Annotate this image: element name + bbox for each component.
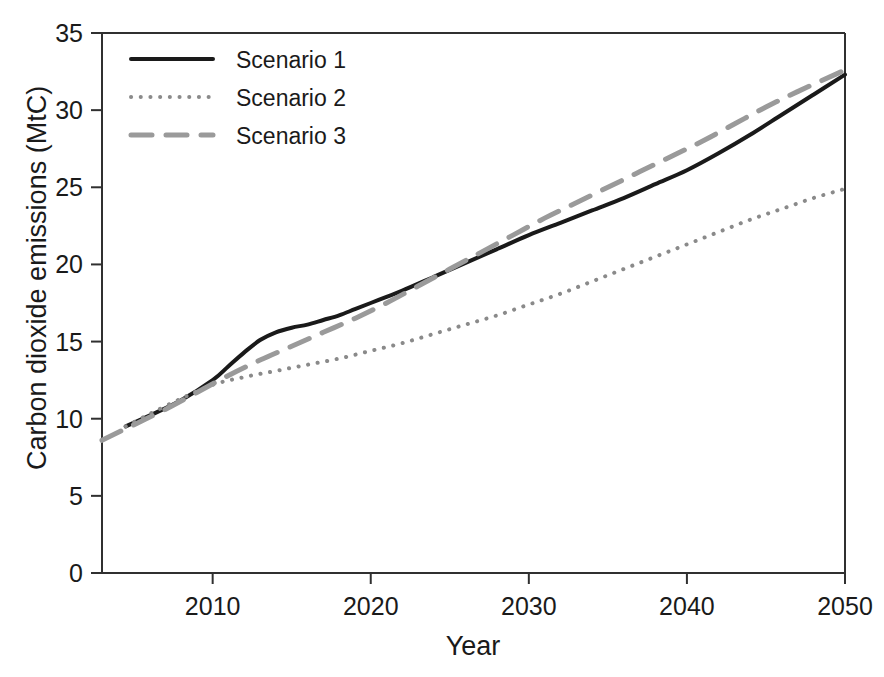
legend-label-2: Scenario 2	[236, 85, 346, 111]
y-tick-label: 15	[55, 328, 83, 356]
x-tick-label: 2030	[501, 592, 557, 620]
x-axis-title: Year	[446, 631, 501, 661]
y-axis-ticks: 05101520253035	[55, 19, 102, 587]
x-tick-label: 2010	[185, 592, 241, 620]
x-tick-label: 2040	[659, 592, 715, 620]
legend-label-3: Scenario 3	[236, 123, 346, 149]
line-chart: 05101520253035 20102020203020402050 Carb…	[0, 0, 884, 677]
y-tick-label: 10	[55, 405, 83, 433]
legend-label-1: Scenario 1	[236, 47, 346, 73]
y-axis-title: Carbon dioxide emissions (MtC)	[22, 86, 52, 470]
y-tick-label: 0	[69, 559, 83, 587]
series-line-2	[126, 189, 845, 427]
x-tick-label: 2020	[343, 592, 399, 620]
chart-legend: Scenario 1Scenario 2Scenario 3	[131, 47, 346, 149]
legend-item-3: Scenario 3	[131, 123, 346, 149]
y-tick-label: 5	[69, 482, 83, 510]
x-tick-label: 2050	[817, 592, 873, 620]
y-tick-label: 35	[55, 19, 83, 47]
data-series-group	[102, 70, 845, 440]
x-axis-ticks: 20102020203020402050	[185, 573, 873, 620]
chart-figure: 05101520253035 20102020203020402050 Carb…	[0, 0, 884, 677]
series-line-3	[102, 70, 845, 440]
legend-item-1: Scenario 1	[131, 47, 346, 73]
plot-axes	[102, 33, 845, 573]
y-tick-label: 30	[55, 96, 83, 124]
y-tick-label: 20	[55, 250, 83, 278]
y-tick-label: 25	[55, 173, 83, 201]
legend-item-2: Scenario 2	[131, 85, 346, 111]
